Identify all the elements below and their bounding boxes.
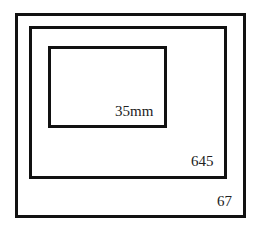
frame-label-645: 645 [191,154,214,169]
frame-label-35mm: 35mm [115,104,153,119]
frame-label-67: 67 [217,194,232,209]
